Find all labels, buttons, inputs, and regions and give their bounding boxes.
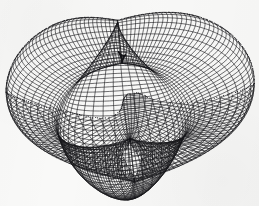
silhouette-point (107, 40, 108, 41)
silhouette-point (95, 117, 96, 118)
silhouette-point (109, 18, 110, 19)
silhouette-point (139, 144, 140, 145)
silhouette-point (134, 150, 135, 151)
silhouette-point (121, 147, 122, 148)
silhouette-point (99, 52, 100, 53)
silhouette-point (14, 59, 15, 60)
silhouette-point (214, 22, 215, 23)
silhouette-point (102, 118, 103, 119)
silhouette-point (38, 33, 39, 34)
silhouette-point (133, 149, 134, 150)
silhouette-point (83, 115, 84, 116)
silhouette-point (246, 53, 247, 54)
silhouette-point (94, 60, 95, 61)
silhouette-point (226, 30, 227, 31)
silhouette-point (109, 37, 110, 38)
silhouette-point (53, 24, 54, 25)
silhouette-point (111, 33, 112, 34)
silhouette-point (124, 38, 125, 39)
silhouette-point (113, 30, 114, 31)
silhouette-point (187, 13, 188, 14)
silhouette-point (146, 13, 147, 14)
silhouette-point (220, 26, 221, 27)
silhouette-point (10, 68, 11, 69)
silhouette-point (123, 171, 124, 172)
silhouette-point (135, 15, 136, 16)
silhouette-point (68, 19, 69, 20)
silhouette-point (127, 146, 128, 147)
silhouette-point (24, 100, 25, 101)
silhouette-point (133, 51, 134, 52)
silhouette-point (234, 37, 235, 38)
silhouette-point (44, 29, 45, 30)
silhouette-point (125, 17, 126, 18)
silhouette-point (131, 145, 132, 146)
silhouette-point (6, 87, 7, 88)
silhouette-point (195, 15, 196, 16)
silhouette-point (138, 156, 139, 157)
silhouette-point (252, 66, 253, 67)
silhouette-point (148, 13, 149, 14)
silhouette-point (145, 64, 146, 65)
silhouette-point (138, 170, 139, 171)
silhouette-point (240, 43, 241, 44)
silhouette-point (109, 117, 110, 118)
silhouette-point (123, 157, 124, 158)
silhouette-point (27, 42, 28, 43)
silhouette-point (41, 105, 42, 106)
silhouette-point (135, 177, 136, 178)
silhouette-point (22, 48, 23, 49)
silhouette-point (238, 41, 239, 42)
silhouette-point (85, 17, 86, 18)
silhouette-point (128, 167, 129, 168)
silhouette-point (141, 60, 142, 61)
silhouette-point (247, 54, 248, 55)
silhouette-point (119, 28, 120, 29)
silhouette-point (28, 101, 29, 102)
silhouette-point (143, 62, 144, 63)
silhouette-point (249, 86, 250, 87)
silhouette-point (117, 112, 118, 113)
silhouette-point (128, 17, 129, 18)
silhouette-point (158, 12, 159, 13)
silhouette-point (181, 13, 182, 14)
silhouette-point (127, 43, 128, 44)
silhouette-point (128, 179, 129, 180)
silhouette-point (90, 64, 91, 65)
silhouette-point (122, 162, 123, 163)
silhouette-point (103, 18, 104, 19)
silhouette-point (141, 94, 142, 95)
silhouette-point (34, 36, 35, 37)
silhouette-point (147, 97, 148, 98)
silhouette-point (187, 102, 188, 103)
silhouette-point (230, 34, 231, 35)
silhouette-point (141, 14, 142, 15)
silhouette-point (105, 117, 106, 118)
silhouette-point (125, 149, 126, 150)
silhouette-point (136, 54, 137, 55)
silhouette-point (10, 95, 11, 96)
silhouette-point (124, 159, 125, 160)
silhouette-point (249, 59, 250, 60)
silhouette-point (25, 44, 26, 45)
silhouette-point (12, 63, 13, 64)
silhouette-point (146, 65, 147, 66)
silhouette-point (254, 77, 255, 78)
silhouette-point (104, 45, 105, 46)
silhouette-point (237, 91, 238, 92)
silhouette-point (184, 13, 185, 14)
mesh-line (126, 95, 141, 96)
silhouette-point (119, 111, 120, 112)
silhouette-point (138, 93, 139, 94)
silhouette-point (54, 24, 55, 25)
silhouette-point (88, 67, 89, 68)
silhouette-point (74, 18, 75, 19)
silhouette-point (13, 62, 14, 63)
silhouette-point (18, 98, 19, 99)
silhouette-point (112, 19, 113, 20)
silhouette-point (130, 16, 131, 17)
silhouette-point (122, 55, 123, 56)
silhouette-point (181, 102, 182, 103)
silhouette-point (125, 40, 126, 41)
silhouette-point (76, 18, 77, 19)
